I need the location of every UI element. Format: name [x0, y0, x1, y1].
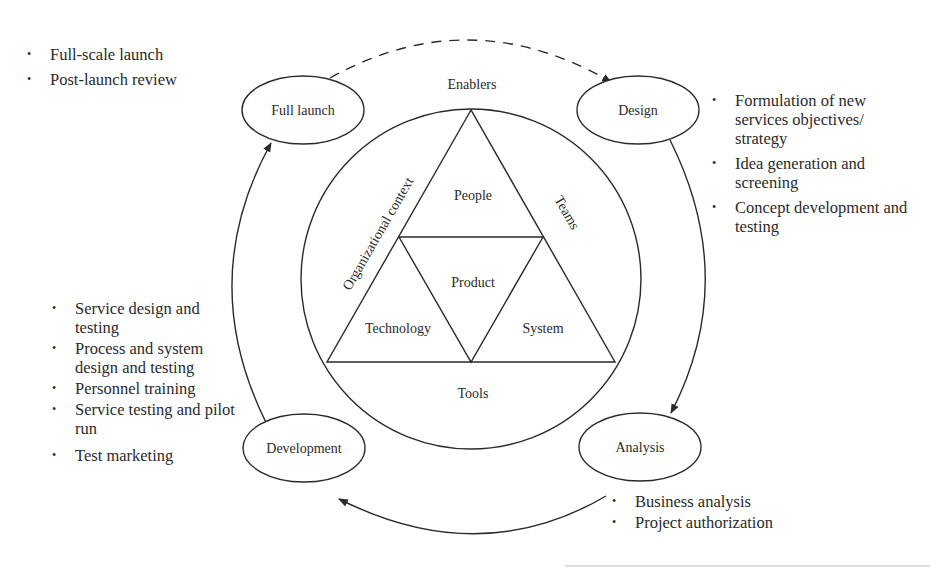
- connector-design-to-analysis: [670, 140, 705, 413]
- activity-item: Project authorization: [612, 513, 842, 532]
- connector-analysis-to-development: [339, 496, 606, 534]
- activity-item: Idea generation and screening: [712, 154, 912, 192]
- development-activities: Service design and testing Process and s…: [52, 299, 237, 467]
- activity-item: Service testing and pilot run: [52, 400, 237, 438]
- stage-full-launch-label: Full launch: [271, 103, 334, 118]
- activity-item: Personnel training: [52, 379, 237, 398]
- enablers-label: Enablers: [448, 77, 497, 92]
- connector-development-to-fulllaunch: [232, 143, 277, 443]
- activity-item: Process and system design and testing: [52, 339, 237, 377]
- tools-label: Tools: [458, 386, 489, 401]
- inner-triangle: [399, 237, 543, 362]
- stage-analysis: Analysis: [579, 413, 701, 481]
- activity-item: Concept development and testing: [712, 198, 912, 236]
- analysis-activities: Business analysis Project authorization: [612, 492, 842, 534]
- teams-label: Teams: [551, 193, 582, 232]
- connector-fulllaunch-to-design: [330, 40, 611, 82]
- stage-design: Design: [577, 76, 699, 144]
- activity-item: Full-scale launch: [27, 45, 257, 64]
- design-activities: Formulation of new services objectives/ …: [712, 91, 912, 242]
- activity-item: Test marketing: [52, 446, 237, 465]
- full-launch-activities: Full-scale launch Post-launch review: [27, 45, 257, 95]
- triangle-label-system: System: [522, 321, 563, 336]
- triangle-label-technology: Technology: [365, 321, 431, 336]
- activity-item: Post-launch review: [27, 70, 257, 89]
- activity-item: Business analysis: [612, 492, 842, 511]
- stage-analysis-label: Analysis: [616, 440, 665, 455]
- triangle-label-product: Product: [451, 275, 495, 290]
- stage-full-launch: Full launch: [242, 76, 364, 144]
- stage-development: Development: [243, 414, 365, 482]
- activity-item: Service design and testing: [52, 299, 237, 337]
- org-context-label: Organizational context: [340, 175, 417, 293]
- stage-development-label: Development: [266, 441, 342, 456]
- triangle-label-people: People: [454, 188, 492, 203]
- stage-design-label: Design: [618, 103, 658, 118]
- activity-item: Formulation of new services objectives/ …: [712, 91, 912, 148]
